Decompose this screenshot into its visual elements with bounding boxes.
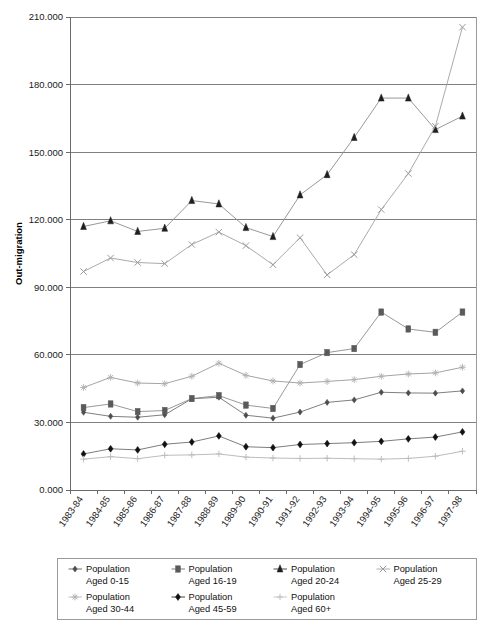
legend-marker-filled-diamond-icon: [171, 592, 186, 603]
data-point-star: [134, 380, 141, 387]
data-point-filled-diamond: [216, 433, 221, 440]
data-point-square: [108, 401, 113, 407]
out-migration-chart: 0.00030.00060.00090.000120.000150.000180…: [0, 0, 489, 632]
x-axis-ticks: 1983-841984-851985-861986-871987-881988-…: [56, 490, 476, 529]
data-point-square: [379, 309, 384, 315]
data-point-filled-diamond: [298, 441, 303, 448]
legend-label: Population Aged 0-15: [86, 564, 130, 587]
data-point-triangle: [108, 217, 114, 224]
data-point-diamond: [108, 413, 112, 419]
x-tick-label: 1995-96: [381, 494, 410, 529]
legend-label: Population Aged 60+: [291, 592, 335, 615]
data-point-filled-diamond: [108, 445, 113, 452]
data-point-diamond: [298, 409, 302, 415]
series-1: [81, 309, 465, 415]
y-tick-label: 60.000: [34, 349, 63, 360]
series-polyline: [84, 391, 463, 418]
y-tick-label: 120.000: [29, 214, 63, 225]
data-point-star: [243, 372, 250, 379]
data-point-square: [162, 407, 167, 413]
legend-marker-plus-icon: [273, 592, 288, 603]
data-point-cross: [378, 206, 384, 212]
data-point-plus: [134, 455, 140, 461]
series-5: [81, 428, 465, 457]
data-point-star: [107, 374, 114, 381]
data-point-square: [352, 345, 357, 351]
data-point-plus: [324, 455, 330, 461]
x-tick-label: 1994-95: [354, 494, 383, 529]
data-point-star: [188, 373, 195, 380]
data-point-square: [325, 349, 330, 355]
data-point-star: [215, 360, 222, 367]
x-tick-label: 1983-84: [56, 494, 85, 529]
legend-item-5[interactable]: Population Aged 45-59: [167, 592, 270, 620]
data-point-triangle: [243, 223, 249, 230]
x-tick-label: 1990-91: [246, 494, 275, 529]
legend-item-3[interactable]: Population Aged 25-29: [372, 564, 475, 592]
data-point-filled-diamond: [271, 444, 276, 451]
data-point-cross: [405, 170, 411, 176]
data-point-square: [460, 309, 465, 315]
data-point-triangle: [277, 565, 283, 572]
chart-canvas: 0.00030.00060.00090.000120.000150.000180…: [0, 0, 489, 558]
x-tick-label: 1986-87: [137, 494, 166, 529]
y-tick-label: 180.000: [29, 79, 63, 90]
legend-item-2[interactable]: Population Aged 20-24: [269, 564, 372, 592]
data-point-diamond: [406, 390, 410, 396]
data-point-star: [161, 380, 168, 387]
data-point-star: [405, 371, 412, 378]
legend-label: Population Aged 20-24: [291, 564, 339, 587]
x-tick-label: 1992-93: [300, 494, 329, 529]
data-point-plus: [405, 455, 411, 461]
data-point-diamond: [271, 415, 275, 421]
data-point-diamond: [136, 414, 140, 420]
legend-label: Population Aged 25-29: [394, 564, 442, 587]
y-tick-label: 150.000: [29, 147, 63, 158]
data-point-plus: [107, 453, 113, 459]
data-point-plus: [80, 456, 86, 462]
data-point-plus: [378, 456, 384, 462]
data-point-diamond: [433, 390, 437, 396]
data-point-triangle: [297, 191, 303, 198]
data-point-triangle: [189, 196, 195, 203]
data-point-plus: [162, 452, 168, 458]
data-point-square: [175, 566, 180, 572]
series-0: [81, 388, 464, 421]
series-3: [80, 24, 465, 278]
legend-item-0[interactable]: Population Aged 0-15: [64, 564, 167, 592]
data-point-diamond: [73, 566, 77, 572]
y-tick-label: 0.000: [39, 484, 63, 495]
data-point-triangle: [378, 94, 384, 101]
x-tick-label: 1987-88: [164, 494, 193, 529]
x-tick-label: 1996-97: [408, 494, 437, 529]
data-point-triangle: [460, 112, 466, 119]
data-point-diamond: [352, 397, 356, 403]
data-point-cross: [243, 242, 249, 248]
x-tick-label: 1997-98: [435, 494, 464, 529]
series-polyline: [84, 98, 463, 237]
legend-item-4[interactable]: Population Aged 30-44: [64, 592, 167, 620]
series-lines: [80, 24, 466, 462]
x-tick-label: 1993-94: [327, 494, 356, 529]
y-tick-label: 90.000: [34, 282, 63, 293]
data-point-star: [432, 369, 439, 376]
data-point-plus: [277, 594, 283, 600]
y-axis-ticks: 0.00030.00060.00090.000120.000150.000180…: [29, 11, 70, 495]
data-point-filled-diamond: [325, 440, 330, 447]
data-point-star: [378, 373, 385, 380]
legend-item-1[interactable]: Population Aged 16-19: [167, 564, 270, 592]
data-point-plus: [189, 452, 195, 458]
data-point-star: [324, 378, 331, 385]
legend-item-6[interactable]: Population Aged 60+: [269, 592, 372, 620]
series-polyline: [84, 312, 463, 412]
data-point-filled-diamond: [433, 434, 438, 441]
data-point-cross: [351, 251, 357, 257]
data-point-cross: [189, 241, 195, 247]
data-point-plus: [243, 454, 249, 460]
data-point-cross: [270, 262, 276, 268]
data-point-filled-diamond: [460, 428, 465, 435]
data-point-filled-diamond: [175, 594, 180, 601]
data-point-square: [244, 402, 249, 408]
data-point-square: [298, 361, 303, 367]
data-point-square: [433, 329, 438, 335]
